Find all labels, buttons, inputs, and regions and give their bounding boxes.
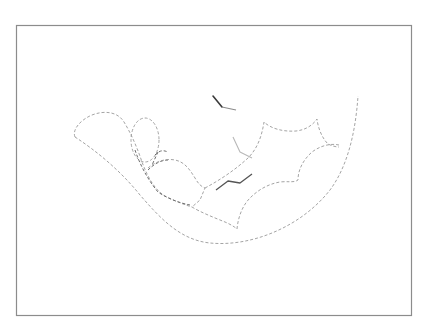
figure-frame bbox=[17, 26, 412, 316]
diagram-canvas bbox=[0, 0, 430, 332]
